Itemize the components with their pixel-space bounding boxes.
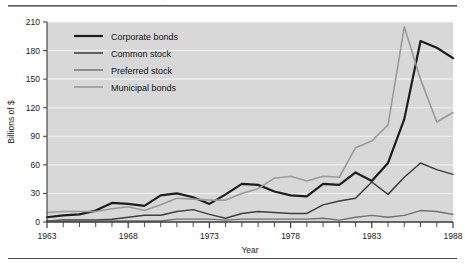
chart-area: 0306090120150180210 19631968197319781983… (0, 8, 465, 258)
x-tick-label-1988: 1988 (444, 231, 463, 241)
page-rule-bottom (8, 258, 457, 259)
x-tick-label-1968: 1968 (119, 231, 138, 241)
y-tick-label-90: 90 (31, 131, 41, 141)
figure-caption: EXHIBIT 4-1 U.S. Public Securities Issue… (8, 0, 206, 1)
figure-container: EXHIBIT 4-1 U.S. Public Securities Issue… (0, 0, 465, 266)
legend-label-common-stock: Common stock (111, 49, 172, 59)
y-tick-label-150: 150 (26, 74, 40, 84)
y-tick-label-60: 60 (31, 160, 41, 170)
legend-label-corporate-bonds: Corporate bonds (111, 32, 179, 42)
x-tick-label-1973: 1973 (200, 231, 219, 241)
legend-label-preferred-stock: Preferred stock (111, 66, 173, 76)
x-tick-label-1963: 1963 (38, 231, 57, 241)
x-axis-title: Year (241, 245, 258, 255)
y-tick-label-0: 0 (35, 217, 40, 227)
legend-label-municipal-bonds: Municipal bonds (111, 83, 177, 93)
y-axis-tick-labels: 0306090120150180210 (26, 17, 40, 227)
x-axis-tick-labels: 196319681973197819831988 (38, 231, 463, 241)
x-tick-label-1978: 1978 (281, 231, 300, 241)
y-tick-label-30: 30 (31, 188, 41, 198)
plot-background-group (47, 22, 453, 222)
plot-background (47, 22, 453, 222)
y-tick-label-180: 180 (26, 46, 40, 56)
y-tick-label-210: 210 (26, 17, 40, 27)
y-axis-title: Billions of $ (6, 100, 16, 144)
line-chart: 0306090120150180210 19631968197319781983… (0, 8, 465, 258)
page-rule-top-secondary (8, 6, 457, 7)
x-tick-label-1983: 1983 (362, 231, 381, 241)
y-tick-label-120: 120 (26, 103, 40, 113)
